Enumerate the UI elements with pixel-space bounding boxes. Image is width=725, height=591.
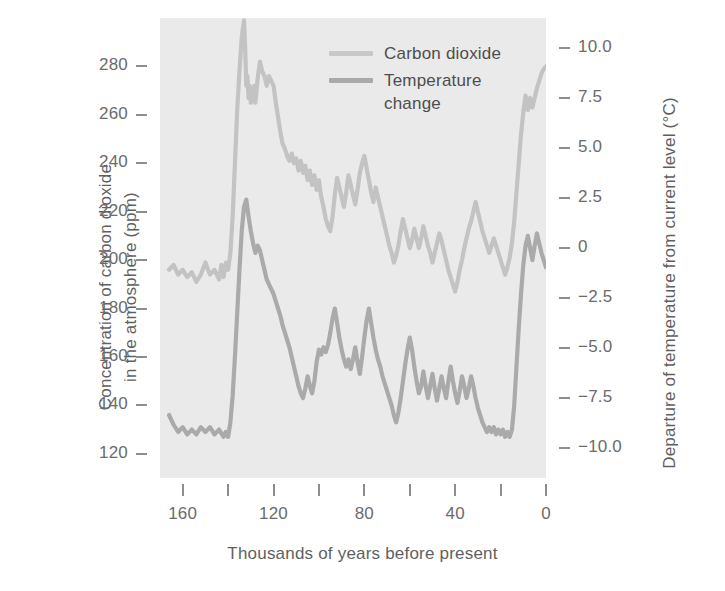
left-tick-mark	[136, 308, 147, 310]
right-tick-label: 7.5	[578, 87, 648, 107]
left-tick-mark	[136, 162, 147, 164]
x-tick-mark	[409, 484, 411, 496]
right-tick-label: 2.5	[578, 187, 648, 207]
left-tick-label: 200	[68, 249, 128, 269]
right-tick-label: 10.0	[578, 37, 648, 57]
left-tick-mark	[136, 211, 147, 213]
x-tick-mark	[182, 484, 184, 496]
legend-swatch-carbon-dioxide	[329, 51, 373, 56]
right-tick-mark	[559, 297, 570, 299]
left-tick-mark	[136, 114, 147, 116]
legend-item-temperature-change: Temperaturechange	[329, 69, 559, 115]
right-tick-label: 0	[578, 237, 648, 257]
x-tick-label: 0	[516, 504, 576, 524]
left-tick-label: 180	[68, 298, 128, 318]
left-tick-label: 160	[68, 346, 128, 366]
legend-swatch-temperature-change	[329, 78, 373, 83]
left-tick-mark	[136, 65, 147, 67]
chart-legend: Carbon dioxide Temperaturechange	[329, 42, 559, 119]
left-tick-mark	[136, 453, 147, 455]
right-tick-label: −7.5	[578, 387, 648, 407]
right-tick-mark	[559, 397, 570, 399]
legend-label-carbon-dioxide: Carbon dioxide	[384, 42, 501, 65]
x-tick-label: 80	[334, 504, 394, 524]
legend-item-carbon-dioxide: Carbon dioxide	[329, 42, 559, 65]
left-tick-label: 280	[68, 55, 128, 75]
right-tick-mark	[559, 47, 570, 49]
x-tick-mark	[318, 484, 320, 496]
left-tick-mark	[136, 356, 147, 358]
right-tick-mark	[559, 97, 570, 99]
x-tick-label: 160	[153, 504, 213, 524]
x-tick-mark	[363, 484, 365, 496]
right-axis-title-wrapper: Departure of temperature from current le…	[650, 25, 690, 545]
legend-label-temperature-change: Temperaturechange	[384, 69, 482, 115]
right-tick-label: −10.0	[578, 437, 648, 457]
x-tick-mark	[273, 484, 275, 496]
right-tick-mark	[559, 447, 570, 449]
left-tick-label: 260	[68, 104, 128, 124]
x-tick-mark	[454, 484, 456, 496]
left-tick-label: 140	[68, 394, 128, 414]
x-tick-label: 120	[244, 504, 304, 524]
right-tick-label: 5.0	[578, 137, 648, 157]
x-tick-mark	[545, 484, 547, 496]
series-line-temperature-change	[169, 200, 546, 437]
chart-figure: Concentration of carbon dioxide in the a…	[0, 0, 725, 591]
left-tick-mark	[136, 259, 147, 261]
left-tick-mark	[136, 404, 147, 406]
left-tick-label: 240	[68, 152, 128, 172]
right-tick-mark	[559, 247, 570, 249]
right-tick-mark	[559, 147, 570, 149]
left-tick-label: 220	[68, 201, 128, 221]
x-axis-title: Thousands of years before present	[0, 544, 725, 564]
left-tick-label: 120	[68, 443, 128, 463]
right-tick-label: −5.0	[578, 337, 648, 357]
right-axis-title: Departure of temperature from current le…	[660, 23, 680, 543]
right-tick-mark	[559, 197, 570, 199]
x-tick-mark	[500, 484, 502, 496]
x-tick-mark	[227, 484, 229, 496]
x-tick-label: 40	[425, 504, 485, 524]
right-tick-label: −2.5	[578, 287, 648, 307]
right-tick-mark	[559, 347, 570, 349]
